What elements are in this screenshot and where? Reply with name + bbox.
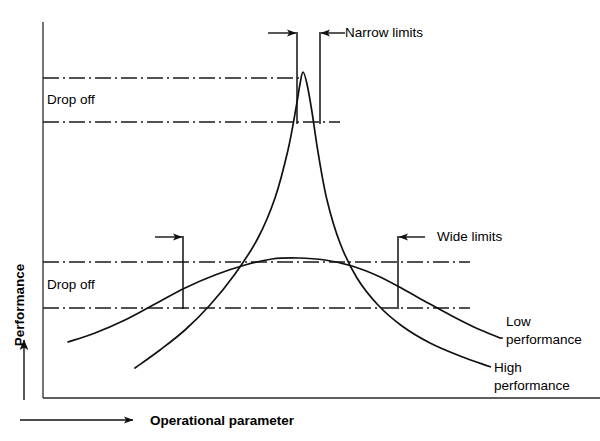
- narrow-limits-label: Narrow limits: [345, 25, 423, 40]
- limit-marker-group: [155, 32, 425, 309]
- curve-low-performance: [68, 258, 500, 342]
- drop-off-label-lower: Drop off: [47, 277, 95, 292]
- drop-off-label-upper: Drop off: [47, 92, 95, 107]
- y-axis-title: Performance: [12, 263, 27, 346]
- high-performance-label-line2: performance: [494, 378, 570, 393]
- diagram-canvas: Narrow limits Wide limits Drop off Drop …: [0, 0, 600, 441]
- performance-parameter-diagram: Narrow limits Wide limits Drop off Drop …: [0, 0, 600, 441]
- x-axis-title: Operational parameter: [150, 413, 295, 428]
- high-performance-leader-line: [488, 366, 491, 367]
- high-performance-label-line1: High: [494, 360, 522, 375]
- low-performance-label-line2: performance: [506, 332, 582, 347]
- reference-line-group: [43, 78, 470, 308]
- curve-group: [68, 72, 500, 368]
- curve-high-performance: [135, 72, 488, 368]
- low-performance-label-line1: Low: [506, 314, 531, 329]
- wide-limits-label: Wide limits: [437, 229, 503, 244]
